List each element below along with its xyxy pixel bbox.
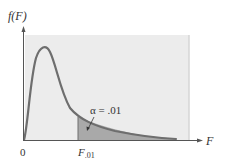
critical-value-label: F.01 xyxy=(77,146,95,160)
y-axis-label: f(F) xyxy=(8,9,27,23)
critical-value-subscript: .01 xyxy=(85,151,95,160)
alpha-annotation: α = .01 xyxy=(90,104,121,116)
origin-label: 0 xyxy=(20,146,26,158)
x-axis-arrow-icon xyxy=(197,139,203,143)
x-axis-label: F xyxy=(205,134,214,148)
f-distribution-chart: f(F) F 0 F.01 α = .01 xyxy=(0,0,226,164)
y-axis-arrow-icon xyxy=(22,26,26,32)
